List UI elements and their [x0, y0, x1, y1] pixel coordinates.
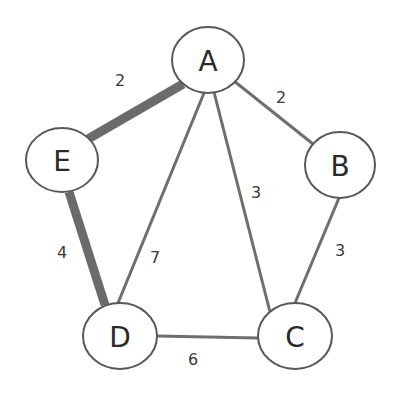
graph-canvas: 2 2 3 7 4 3 6 A B C D E — [0, 0, 397, 394]
edge-a-d — [118, 93, 204, 303]
edge-weight-e-d: 4 — [57, 243, 67, 262]
node-b-label: B — [330, 150, 349, 183]
node-c: C — [258, 303, 332, 369]
node-a-label: A — [198, 45, 217, 78]
node-b: B — [305, 132, 375, 198]
node-d: D — [83, 303, 157, 369]
edge-weight-d-c: 6 — [188, 350, 198, 369]
node-e-label: E — [53, 145, 71, 178]
node-d-label: D — [109, 321, 131, 354]
edge-weight-a-e: 2 — [115, 71, 125, 90]
node-a: A — [172, 27, 244, 93]
edges — [69, 81, 339, 338]
edge-weight-a-c: 3 — [251, 183, 261, 202]
edge-a-e — [88, 84, 183, 139]
node-c-label: C — [285, 321, 305, 354]
node-e: E — [26, 128, 98, 192]
edge-a-b — [234, 81, 313, 144]
edge-weight-a-b: 2 — [276, 88, 286, 107]
edge-e-d — [69, 192, 105, 305]
edge-weight-a-d: 7 — [150, 248, 160, 267]
edge-b-c — [295, 198, 339, 303]
edge-d-c — [157, 336, 258, 338]
edge-a-c — [214, 92, 270, 312]
edge-weight-b-c: 3 — [335, 241, 345, 260]
